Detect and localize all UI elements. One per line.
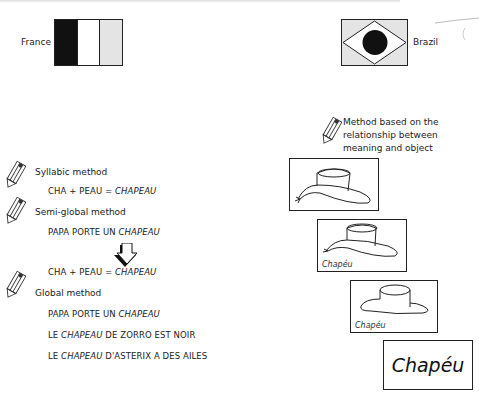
flag-stripe-grey [99,20,122,65]
transition-example: CHA + PEAU = CHAPEAU [48,267,156,277]
flag-stripe-white [77,20,100,65]
word-card-label: Chapéu [392,354,465,376]
syllabic-example: CHA + PEAU = CHAPEAU [48,186,156,196]
semi-global-method-title: Semi-global method [35,207,126,217]
pencil-icon [320,116,342,146]
brazil-flag-graphic [342,20,407,65]
global-example-1: PAPA PORTE UN CHAPEAU [48,309,160,319]
flag-stripe-black [55,20,77,65]
brazil-flag [341,19,408,66]
syllabic-method-title: Syllabic method [35,167,107,177]
hat-card-1 [289,158,379,211]
hat-icon [318,220,406,260]
france-flag [54,19,123,66]
hat-card-caption: Chapéu [322,260,353,269]
hat-icon [351,281,437,321]
hat-card-2: Chapéu [317,219,407,272]
hat-card-caption: Chapéu [355,321,386,330]
global-example-3: LE CHAPEAU D'ASTERIX A DES AILES [48,351,207,361]
stray-stroke-mark [435,14,479,42]
pencil-icon [4,160,26,190]
global-method-title: Global method [35,288,101,298]
pencil-icon [4,270,26,300]
down-arrow-icon [112,243,138,269]
global-example-2: LE CHAPEAU DE ZORRO EST NOIR [48,330,195,340]
top-cutoff-text [0,0,400,3]
semi-global-example: PAPA PORTE UN CHAPEAU [48,227,160,237]
word-card: Chapéu [383,340,473,390]
pencil-icon [4,196,26,226]
hat-icon [290,159,378,210]
meaning-object-method-title: Method based on the relationship between… [343,116,438,155]
france-label: France [21,37,51,47]
hat-card-3: Chapéu [350,280,438,333]
